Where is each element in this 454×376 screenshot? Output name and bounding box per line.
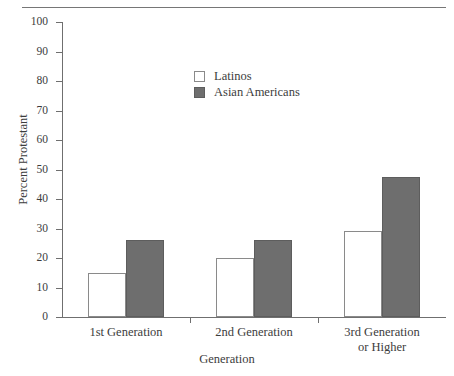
x-axis-category-label: 3rd Generationor Higher [318,325,446,355]
x-axis-line [62,317,446,318]
filled-square-swatch-icon [194,87,205,98]
y-axis-tick-label: 0 [14,311,48,323]
y-axis-tick [56,22,62,23]
y-axis-tick [56,170,62,171]
x-axis-tick [190,317,191,323]
y-axis-tick [56,317,62,318]
bar-asian-americans-3 [382,177,420,317]
y-axis-tick-label: 10 [14,282,48,294]
y-axis-tick-label: 90 [14,46,48,58]
x-axis-title: Generation [0,352,454,367]
legend-item-asian-americans: Asian Americans [194,84,300,100]
bar-chart-figure: 0102030405060708090100 1st Generation2nd… [0,0,454,376]
bar-latinos-2 [216,258,254,317]
y-axis-tick [56,111,62,112]
bar-latinos-1 [88,273,126,317]
y-axis-tick [56,140,62,141]
legend-item-latinos: Latinos [194,68,300,84]
legend-label-latinos: Latinos [214,70,252,83]
legend-label-asian-americans: Asian Americans [214,86,300,99]
top-divider-rule [22,7,446,8]
x-axis-category-label: 2nd Generation [190,325,318,340]
y-axis-tick [56,288,62,289]
y-axis-tick [56,199,62,200]
bar-asian-americans-1 [126,240,164,317]
y-axis-line [62,22,63,317]
y-axis-tick [56,52,62,53]
y-axis-tick [56,81,62,82]
y-axis-title: Percent Protestant [16,80,31,240]
y-axis-tick-label: 20 [14,252,48,264]
x-axis-category-label: 1st Generation [62,325,190,340]
y-axis-tick-label: 100 [14,16,48,28]
hollow-square-swatch-icon [194,71,205,82]
chart-legend: Latinos Asian Americans [194,68,300,100]
y-axis-tick [56,229,62,230]
x-axis-tick [318,317,319,323]
bar-asian-americans-2 [254,240,292,317]
bar-latinos-3 [344,231,382,317]
y-axis-tick [56,258,62,259]
